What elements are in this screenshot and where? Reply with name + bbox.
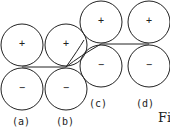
panel-label-d: (d) <box>136 98 154 109</box>
panel-label-b: (b) <box>56 116 74 127</box>
panel-label-a: (a) <box>12 116 30 127</box>
sign-b-bottom: − <box>63 82 69 93</box>
sign-a-bottom: − <box>19 82 25 93</box>
sign-a-top: + <box>19 38 25 49</box>
sign-c-top: + <box>98 15 104 26</box>
caption-fragment: Fi <box>158 110 170 125</box>
sign-d-top: + <box>146 15 152 26</box>
sign-b-top: + <box>63 38 69 49</box>
panel-label-c: (c) <box>89 98 107 109</box>
sign-c-bottom: − <box>98 59 104 70</box>
connecting-line <box>22 44 149 67</box>
sign-d-bottom: − <box>146 59 152 70</box>
